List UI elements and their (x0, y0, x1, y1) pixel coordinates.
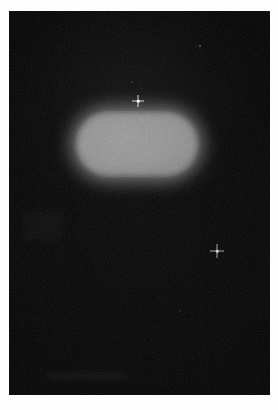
speck-lower-right-icon (210, 244, 224, 258)
speck-core (137, 100, 140, 103)
speck-spike-horizontal (210, 251, 224, 252)
smudge-lower-left (47, 373, 127, 379)
speck-core (216, 250, 219, 253)
faint-dot-upper-right (199, 45, 201, 47)
faint-dot-above-capsule (131, 81, 133, 83)
field-illumination-gradient (9, 11, 270, 395)
faint-dot-lower-center (179, 310, 181, 312)
speck-spike-horizontal (132, 101, 144, 102)
bright-capsule-object (69, 105, 205, 183)
field-grain-texture (9, 11, 270, 395)
speck-upper-center-icon (132, 95, 144, 107)
figure-root: Dark-field micrograph of a bright capsul… (0, 0, 278, 410)
dark-field-image (9, 11, 270, 395)
capsule-halo (71, 107, 203, 181)
smudge-mid-left (23, 211, 63, 241)
speck-spike-vertical (138, 95, 139, 107)
capsule-body (78, 114, 196, 174)
capsule-grain-texture (75, 111, 199, 177)
speck-spike-vertical (217, 244, 218, 258)
